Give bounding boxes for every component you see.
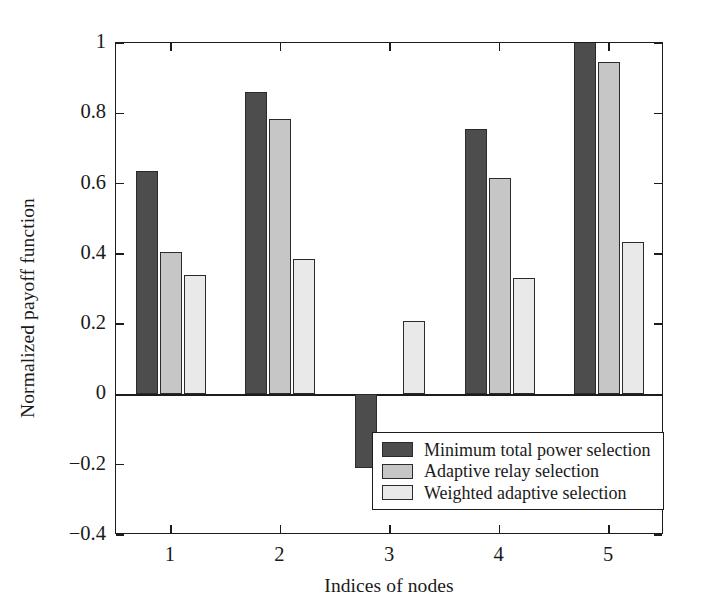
y-axis-tick xyxy=(654,253,662,255)
y-axis-tick-label: 0.2 xyxy=(20,312,106,333)
legend-item-label: Adaptive relay selection xyxy=(424,462,599,480)
y-axis-tick-label: 0.6 xyxy=(20,172,106,193)
y-axis-tick xyxy=(654,113,662,115)
bar xyxy=(184,275,206,394)
y-axis-tick xyxy=(654,394,662,396)
legend: Minimum total power selection Adaptive r… xyxy=(372,432,664,510)
x-axis-tick xyxy=(499,525,501,533)
x-axis-tick-label: 5 xyxy=(578,544,638,565)
y-axis-tick-label: −0.4 xyxy=(20,523,106,544)
y-axis-tick xyxy=(116,464,124,466)
legend-swatch-icon xyxy=(382,485,413,500)
bar xyxy=(622,242,644,395)
bar xyxy=(403,321,425,395)
y-axis-tick xyxy=(654,183,662,185)
y-axis-tick xyxy=(116,42,124,44)
legend-item: Minimum total power selection xyxy=(382,439,655,460)
bar xyxy=(465,129,487,394)
y-axis-tick-label: −0.2 xyxy=(20,453,106,474)
legend-item: Weighted adaptive selection xyxy=(382,482,655,503)
y-axis-tick xyxy=(116,534,124,536)
y-axis-tick xyxy=(116,253,124,255)
y-axis-tick-label: 0.4 xyxy=(20,242,106,263)
legend-item-label: Minimum total power selection xyxy=(424,441,650,459)
bar xyxy=(293,259,315,394)
y-axis-tick xyxy=(116,183,124,185)
legend-swatch-icon xyxy=(382,442,413,457)
bar xyxy=(160,252,182,394)
x-axis-title: Indices of nodes xyxy=(115,575,663,597)
x-axis-tick xyxy=(608,525,610,533)
y-axis-tick-label: 1 xyxy=(20,31,106,52)
bar xyxy=(269,119,291,395)
x-axis-tick xyxy=(499,43,501,51)
bar xyxy=(513,278,535,394)
y-axis-tick xyxy=(654,323,662,325)
x-axis-tick xyxy=(608,43,610,51)
y-axis-tick xyxy=(654,42,662,44)
x-axis-tick xyxy=(280,525,282,533)
bar xyxy=(136,171,158,394)
x-axis-tick-label: 4 xyxy=(469,544,529,565)
x-axis-tick xyxy=(389,525,391,533)
bar xyxy=(489,178,511,394)
y-axis-tick xyxy=(116,113,124,115)
x-axis-tick-label: 1 xyxy=(140,544,200,565)
y-axis-tick xyxy=(654,534,662,536)
x-axis-tick-label: 3 xyxy=(359,544,419,565)
legend-item: Adaptive relay selection xyxy=(382,461,655,482)
x-axis-tick xyxy=(280,43,282,51)
y-axis-tick-label: 0.8 xyxy=(20,101,106,122)
y-axis-tick-label: 0 xyxy=(20,382,106,403)
x-axis-tick xyxy=(389,43,391,51)
y-axis-tick xyxy=(116,323,124,325)
x-axis-tick xyxy=(170,525,172,533)
bar xyxy=(245,92,267,394)
x-axis-tick-label: 2 xyxy=(249,544,309,565)
bar xyxy=(598,62,620,394)
bar xyxy=(574,43,596,394)
x-axis-tick xyxy=(170,43,172,51)
y-axis-tick xyxy=(116,394,124,396)
figure: Normalized payoff function −0.4−0.200.20… xyxy=(0,0,701,616)
legend-item-label: Weighted adaptive selection xyxy=(424,484,626,502)
legend-swatch-icon xyxy=(382,464,413,479)
